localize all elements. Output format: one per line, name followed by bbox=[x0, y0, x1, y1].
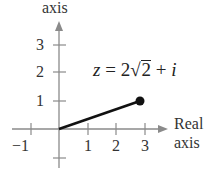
x-tick-1: 1 bbox=[84, 138, 92, 154]
x-tick-2: 2 bbox=[112, 138, 120, 154]
y-tick-2: 2 bbox=[36, 64, 44, 80]
imaginary-axis-label: axis bbox=[42, 0, 68, 16]
x-tick-3: 3 bbox=[141, 138, 149, 154]
y-tick-1: 1 bbox=[36, 93, 44, 109]
x-tick-neg1: −1 bbox=[12, 138, 29, 154]
point-z bbox=[136, 97, 145, 106]
real-axis-label-line2: axis bbox=[174, 135, 200, 151]
real-axis-label-line1: Real bbox=[174, 116, 203, 132]
real-axis-arrow-icon bbox=[158, 125, 168, 133]
imaginary-axis-arrow-icon bbox=[55, 21, 63, 31]
sqrt-icon: √ bbox=[130, 59, 140, 80]
y-tick-3: 3 bbox=[36, 37, 44, 53]
vector-z bbox=[59, 101, 140, 129]
equation-label: z = 2√2 + i bbox=[93, 60, 177, 80]
